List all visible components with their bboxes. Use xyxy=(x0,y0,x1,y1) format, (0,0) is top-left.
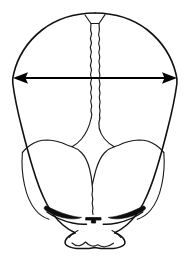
cranial-vault-outline xyxy=(13,13,95,233)
anterior-fontanelle xyxy=(72,118,114,185)
supraorbital-ridge-right xyxy=(108,206,145,219)
chin-group xyxy=(65,231,125,249)
sagittal-suture-lateral xyxy=(99,24,101,119)
metopic-suture-group xyxy=(92,185,93,215)
cranial-vault-outline-right xyxy=(95,13,177,233)
nose xyxy=(86,218,101,223)
coronal-suture-right xyxy=(114,140,164,153)
vertex-fontanelle xyxy=(85,15,105,24)
skull-diagram-figure: Infant skull, superior-frontal view with… xyxy=(0,0,190,258)
biparietal-diameter-measure xyxy=(13,72,177,84)
metopic-suture xyxy=(92,185,93,215)
anterior-fontanelle-group xyxy=(72,118,114,185)
coronal-suture-group xyxy=(22,140,163,153)
skull-illustration: Infant skull, superior-frontal view with… xyxy=(0,0,190,258)
coronal-suture-left xyxy=(22,140,72,153)
sagittal-suture-group xyxy=(85,15,105,118)
nose-group xyxy=(86,218,101,223)
supraorbital-ridge-left xyxy=(44,206,81,219)
sagittal-suture xyxy=(90,24,92,119)
cranial-vault-group xyxy=(13,13,178,233)
chin-scallop xyxy=(72,242,113,247)
